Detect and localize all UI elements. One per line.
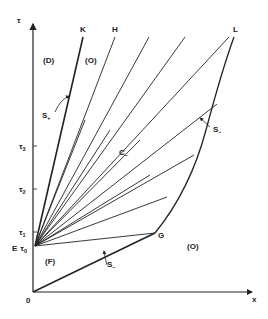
point-l-label: L	[233, 25, 238, 34]
c-minus-fan	[35, 37, 229, 246]
tau3-label: τ3	[19, 142, 26, 152]
s-minus-lower-label: S–	[107, 260, 115, 270]
point-k-label: K	[80, 25, 86, 34]
x-axis-label: x	[252, 295, 257, 304]
region-o-lower-label: (O)	[187, 242, 199, 251]
s-plus-label: S+	[42, 111, 51, 121]
s-minus-upper-label: S–	[213, 125, 221, 135]
c-minus-label: C–	[119, 148, 128, 158]
s-minus-curve	[155, 37, 234, 233]
region-f-label: (F)	[45, 257, 56, 266]
tau0-label: Eτ0	[12, 244, 27, 254]
tau-axis-label: τ	[17, 16, 21, 25]
point-g-label: G	[158, 231, 164, 240]
region-d-label: (D)	[43, 56, 54, 65]
origin-label: 0	[26, 296, 31, 305]
tau2-label: τ2	[19, 185, 26, 195]
characteristic-diagram: τ x 0 τ3 τ2 τ1 Eτ0 K H L G (D) (O) (O) (…	[0, 0, 268, 319]
region-o-upper-label: (O)	[85, 56, 97, 65]
point-h-label: H	[112, 25, 118, 34]
tau1-label: τ1	[19, 228, 26, 238]
